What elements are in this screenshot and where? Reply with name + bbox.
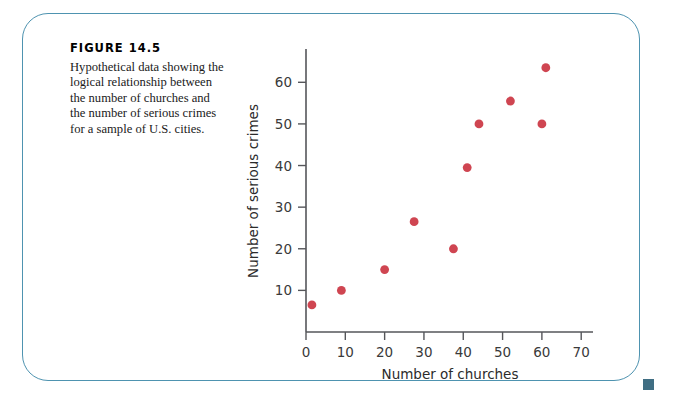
x-tick-label: 10 [337, 344, 354, 360]
data-point [307, 301, 316, 310]
x-tick-label: 20 [376, 344, 393, 360]
x-axis-ticks: 010203040506070 [302, 332, 590, 360]
figure-number-label: FIGURE 14.5 [70, 41, 255, 55]
corner-marker-square [643, 379, 654, 390]
data-point [541, 63, 550, 72]
data-point [337, 286, 346, 295]
y-tick-label: 50 [275, 116, 292, 132]
x-tick-label: 40 [455, 344, 472, 360]
figure-card: FIGURE 14.5 Hypothetical data showing th… [22, 13, 640, 381]
x-tick-label: 50 [494, 344, 511, 360]
axes-group [306, 49, 593, 332]
data-point [537, 120, 546, 129]
x-tick-label: 0 [302, 344, 311, 360]
x-tick-label: 60 [533, 344, 550, 360]
y-tick-label: 10 [275, 282, 292, 298]
x-axis-title: Number of churches [382, 366, 519, 382]
caption-line: the number of churches and [70, 91, 255, 106]
plot-svg: 010203040506070 102030405060 Number of c… [238, 39, 638, 384]
data-point [410, 217, 419, 226]
y-tick-label: 20 [275, 241, 292, 257]
data-point [449, 244, 458, 253]
figure-caption-block: FIGURE 14.5 Hypothetical data showing th… [70, 41, 255, 137]
caption-line: the number of serious crimes [70, 106, 255, 121]
scatter-plot: 010203040506070 102030405060 Number of c… [238, 39, 638, 384]
y-axis-title: Number of serious crimes [245, 104, 261, 278]
caption-line: for a sample of U.S. cities. [70, 122, 255, 137]
y-tick-label: 60 [275, 74, 292, 90]
data-point [380, 265, 389, 274]
data-point [475, 120, 484, 129]
caption-line: Hypothetical data showing the [70, 60, 255, 75]
y-tick-label: 30 [275, 199, 292, 215]
figure-caption-text: Hypothetical data showing the logical re… [70, 60, 255, 137]
x-tick-label: 70 [573, 344, 590, 360]
data-points-group [307, 63, 550, 309]
y-tick-label: 40 [275, 158, 292, 174]
y-axis-ticks: 102030405060 [275, 74, 306, 298]
data-point [506, 97, 515, 106]
data-point [463, 163, 472, 172]
x-tick-label: 30 [415, 344, 432, 360]
caption-line: logical relationship between [70, 75, 255, 90]
